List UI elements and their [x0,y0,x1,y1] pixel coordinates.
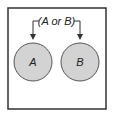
venn-diagram: A B (A or B) [0,0,115,117]
set-a-label: A [28,56,36,68]
union-label: (A or B) [38,15,76,27]
set-b-label: B [76,56,83,68]
